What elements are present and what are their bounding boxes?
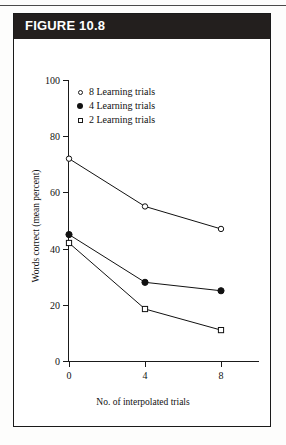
data-point	[66, 240, 71, 245]
data-point	[66, 231, 72, 237]
data-point	[66, 156, 71, 161]
legend-label-4-trials: 4 Learning trials	[89, 99, 155, 113]
chart-legend: 8 Learning trials 4 Learning trials 2 Le…	[76, 85, 155, 127]
open-circle-icon	[76, 90, 84, 95]
data-point	[218, 327, 223, 332]
figure-container: FIGURE 10.8 100 80 60 40 20 0 0 4 8	[13, 13, 271, 427]
data-point	[218, 226, 223, 231]
legend-label-2-trials: 2 Learning trials	[89, 113, 155, 127]
filled-circle-icon	[76, 103, 84, 109]
chart-plot-area: 100 80 60 40 20 0 0 4 8 No. of interpola…	[14, 14, 272, 428]
legend-item-8-trials: 8 Learning trials	[76, 85, 155, 99]
data-point	[142, 306, 147, 311]
open-square-icon	[76, 118, 84, 123]
data-point	[142, 204, 147, 209]
series-line	[69, 159, 221, 229]
legend-item-4-trials: 4 Learning trials	[76, 99, 155, 113]
chart-series-layer	[14, 14, 272, 428]
page-canvas: FIGURE 10.8 100 80 60 40 20 0 0 4 8	[0, 0, 286, 445]
legend-label-8-trials: 8 Learning trials	[89, 85, 155, 99]
series-2	[66, 231, 224, 293]
legend-item-2-trials: 2 Learning trials	[76, 113, 155, 127]
series-line	[69, 243, 221, 330]
series-1	[66, 156, 223, 232]
data-point	[142, 279, 148, 285]
data-point	[218, 288, 224, 294]
page-top-rule	[0, 5, 286, 6]
series-3	[66, 240, 223, 332]
